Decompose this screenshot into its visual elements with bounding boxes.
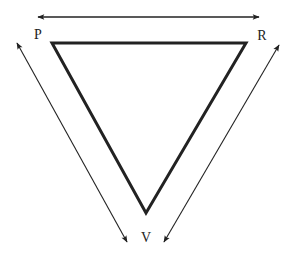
label-r: R (257, 29, 266, 43)
triangle-diagram (0, 0, 291, 255)
label-p: P (34, 28, 42, 42)
arrow-r-v (164, 45, 279, 242)
central-triangle (52, 43, 246, 213)
arrow-p-v (17, 43, 127, 242)
label-v: V (141, 231, 151, 245)
